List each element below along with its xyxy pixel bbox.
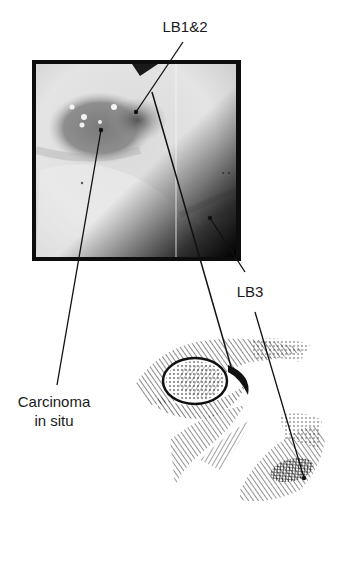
label-carcinoma-in-situ: Carcinoma in situ xyxy=(6,392,102,430)
marker-lb12-illustration xyxy=(230,368,234,372)
marker-lb3 xyxy=(208,216,212,220)
marker-carcinoma xyxy=(99,128,103,132)
marker-lb3-illustration xyxy=(302,476,306,480)
label-lb12: LB1&2 xyxy=(158,17,212,36)
diagram-canvas xyxy=(0,0,337,579)
marker-lb12 xyxy=(134,110,138,114)
label-carcinoma-line1: Carcinoma xyxy=(6,392,102,411)
label-carcinoma-line2: in situ xyxy=(6,411,102,430)
bronchoscopy-photo xyxy=(32,60,241,261)
label-lb3: LB3 xyxy=(230,282,270,301)
